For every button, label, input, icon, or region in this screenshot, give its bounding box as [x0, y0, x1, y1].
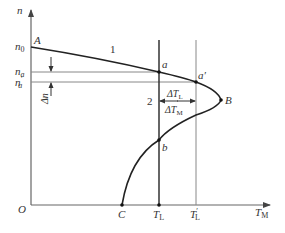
- curve-1: [31, 47, 221, 100]
- x-axis-label: TM: [255, 206, 268, 220]
- C-label: C: [118, 208, 126, 220]
- a-label: a: [162, 58, 168, 70]
- point-b: [157, 138, 161, 142]
- curve-2: [122, 100, 221, 205]
- point-B: [219, 98, 223, 102]
- tl-prime-label: T′L: [190, 207, 200, 222]
- a-prime-label: a′: [198, 69, 207, 81]
- delta-n-label: Δn: [39, 93, 50, 105]
- curve-2-label: 2: [147, 95, 153, 107]
- b-label: b: [162, 141, 168, 153]
- delta-tm-label: ΔTM: [164, 104, 183, 117]
- point-a: [157, 70, 161, 74]
- tl-label: TL: [153, 208, 164, 222]
- B-label: B: [225, 94, 232, 106]
- point-C: [120, 203, 124, 207]
- delta-tl-label: ΔTL: [166, 88, 183, 101]
- y-axis-label: n: [17, 4, 23, 16]
- point-TL: [157, 203, 161, 207]
- curve-1-label: 1: [110, 43, 116, 55]
- origin-label: O: [18, 203, 26, 215]
- na-prime-label: n′a: [15, 75, 23, 90]
- n0-label: n0: [15, 40, 25, 54]
- A-label: A: [33, 34, 41, 46]
- motor-load-characteristic-diagram: n O TM n0 na n′a C TL T′L A a a′ B b 1 2…: [0, 0, 285, 233]
